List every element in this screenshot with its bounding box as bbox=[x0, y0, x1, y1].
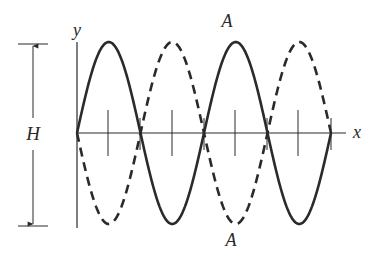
y-axis-label: y bbox=[71, 20, 81, 40]
x-axis-label: x bbox=[352, 122, 361, 142]
antinode-label-top: A bbox=[221, 11, 234, 31]
height-label: H bbox=[25, 123, 41, 144]
height-dimension: H bbox=[18, 44, 48, 226]
standing-wave-diagram: H y x A A bbox=[0, 0, 382, 261]
antinode-label-bottom: A bbox=[225, 230, 238, 250]
axes: y x bbox=[71, 20, 361, 228]
